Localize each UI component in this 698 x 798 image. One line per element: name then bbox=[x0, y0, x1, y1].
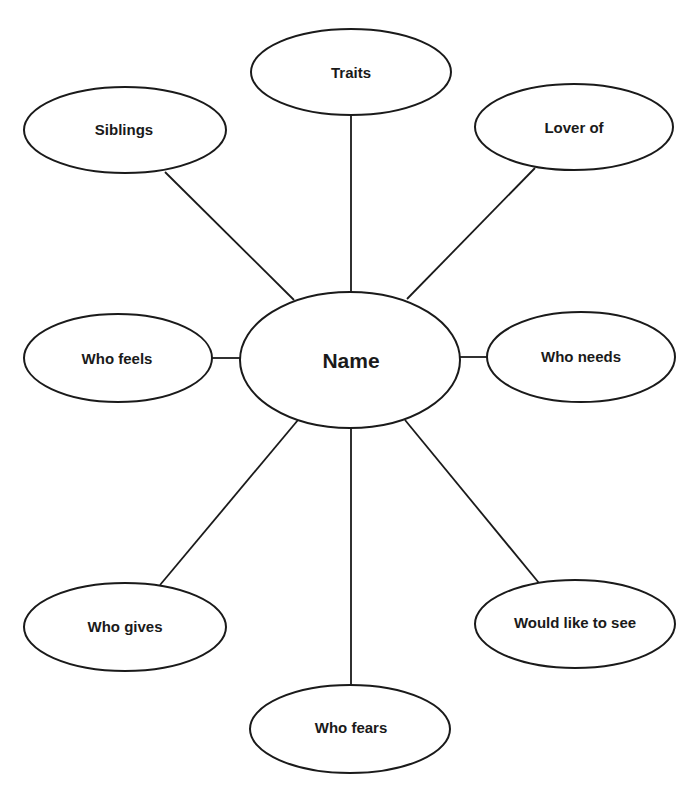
node-who-fears: Who fears bbox=[250, 685, 450, 773]
node-who-gives: Who gives bbox=[24, 583, 226, 671]
connector-siblings bbox=[165, 172, 294, 300]
connector-would-like-to-see bbox=[405, 420, 539, 583]
node-siblings-label: Siblings bbox=[95, 121, 153, 138]
node-lover-of-label: Lover of bbox=[544, 119, 604, 136]
node-who-feels-label: Who feels bbox=[82, 350, 153, 367]
node-who-needs: Who needs bbox=[487, 312, 675, 402]
node-who-needs-label: Who needs bbox=[541, 348, 621, 365]
node-lover-of: Lover of bbox=[475, 84, 673, 170]
node-would-like-to-see-label: Would like to see bbox=[514, 614, 636, 631]
node-who-feels: Who feels bbox=[24, 314, 212, 402]
node-traits-label: Traits bbox=[331, 64, 371, 81]
character-web-diagram: Name Traits Siblings Lover of Who feels … bbox=[0, 0, 698, 798]
center-node-label: Name bbox=[322, 349, 379, 372]
node-who-fears-label: Who fears bbox=[315, 719, 388, 736]
node-who-gives-label: Who gives bbox=[87, 618, 162, 635]
node-siblings: Siblings bbox=[24, 87, 226, 173]
center-node-name: Name bbox=[240, 292, 460, 428]
connector-who-gives bbox=[160, 420, 298, 585]
node-traits: Traits bbox=[251, 29, 451, 115]
connector-lover-of bbox=[407, 168, 535, 299]
node-would-like-to-see: Would like to see bbox=[475, 580, 675, 668]
